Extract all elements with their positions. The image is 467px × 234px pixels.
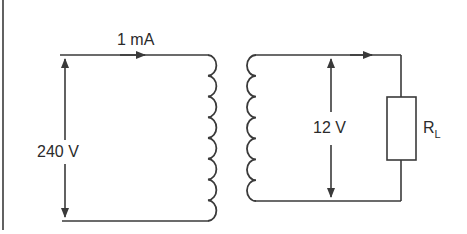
load-label-subscript: L <box>435 128 441 140</box>
primary-coil-icon <box>208 55 216 221</box>
primary-voltage-label: 240 V <box>37 144 79 160</box>
transformer-circuit-diagram <box>0 0 467 234</box>
primary-circuit <box>60 55 216 221</box>
secondary-coil-icon <box>247 55 256 201</box>
load-resistor-label: RL <box>423 120 441 136</box>
secondary-voltage-label: 12 V <box>313 120 346 136</box>
load-label-main: R <box>423 119 435 136</box>
primary-current-label: 1 mA <box>117 32 154 48</box>
load-resistor-icon <box>387 97 416 160</box>
